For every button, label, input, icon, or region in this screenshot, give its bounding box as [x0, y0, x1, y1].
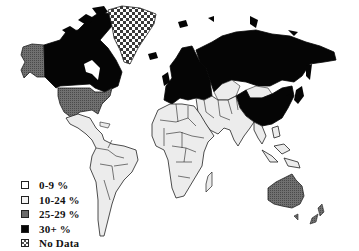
- region-tasmania: [294, 214, 298, 220]
- legend-item-10-24: 10-24 %: [21, 193, 111, 208]
- region-arctic-europe-islands: [178, 16, 214, 28]
- legend-item-0-9: 0-9 %: [21, 178, 111, 193]
- legend-swatch-30-plus: [21, 225, 29, 233]
- legend-label: 10-24 %: [39, 194, 80, 206]
- region-caribbean: [100, 122, 110, 128]
- region-new-zealand: [310, 204, 324, 224]
- region-southeast-asia: [254, 122, 300, 168]
- region-australia: [268, 174, 304, 208]
- legend-swatch-10-24: [21, 196, 29, 204]
- map-legend: 0-9 % 10-24 % 25-29 % 30+ % No Data: [21, 178, 111, 251]
- region-madagascar: [206, 172, 212, 192]
- legend-item-30-plus: 30+ %: [21, 222, 111, 237]
- region-alaska: [21, 44, 45, 78]
- legend-label: 25-29 %: [39, 208, 80, 220]
- region-united-states: [58, 88, 112, 118]
- legend-swatch-25-29: [21, 210, 29, 218]
- legend-item-25-29: 25-29 %: [21, 207, 111, 222]
- legend-label: No Data: [39, 237, 79, 249]
- region-iceland: [148, 52, 158, 60]
- region-russia: [196, 30, 336, 92]
- legend-label: 0-9 %: [39, 179, 68, 191]
- region-canada: [44, 12, 122, 92]
- legend-item-no-data: No Data: [21, 236, 111, 251]
- region-kamchatka: [306, 64, 312, 80]
- legend-swatch-no-data: [21, 239, 29, 247]
- legend-label: 30+ %: [39, 223, 71, 235]
- legend-swatch-0-9: [21, 181, 29, 189]
